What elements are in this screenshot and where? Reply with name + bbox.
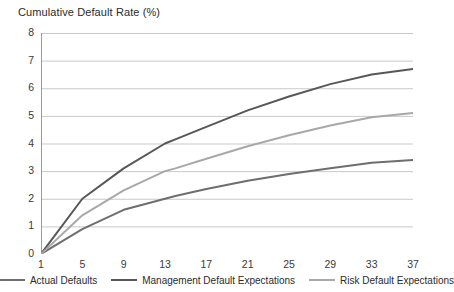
y-tick-label-3: 3 bbox=[14, 164, 34, 176]
x-tick-label-29: 29 bbox=[318, 258, 342, 270]
legend-swatch-icon-2 bbox=[309, 279, 335, 282]
x-tick-label-9: 9 bbox=[112, 258, 136, 270]
x-tick-label-17: 17 bbox=[194, 258, 218, 270]
legend-swatch-icon-1 bbox=[111, 279, 137, 282]
series-line-1 bbox=[41, 69, 413, 254]
legend-label-0: Actual Defaults bbox=[30, 275, 97, 286]
legend-label-1: Management Default Expectations bbox=[142, 275, 295, 286]
y-tick-label-4: 4 bbox=[14, 137, 34, 149]
x-tick-label-13: 13 bbox=[153, 258, 177, 270]
x-tick-label-21: 21 bbox=[236, 258, 260, 270]
legend-label-2: Risk Default Expectations bbox=[340, 275, 454, 286]
x-tick-label-33: 33 bbox=[360, 258, 384, 270]
legend-swatch-icon-0 bbox=[0, 279, 25, 282]
x-tick-label-5: 5 bbox=[70, 258, 94, 270]
y-tick-label-1: 1 bbox=[14, 219, 34, 231]
legend-item-2[interactable]: Risk Default Expectations bbox=[309, 275, 454, 286]
legend-item-1[interactable]: Management Default Expectations bbox=[111, 275, 295, 286]
x-tick-label-25: 25 bbox=[277, 258, 301, 270]
chart-legend: Actual DefaultsManagement Default Expect… bbox=[0, 272, 453, 288]
plot-svg bbox=[41, 33, 413, 254]
x-tick-label-1: 1 bbox=[29, 258, 53, 270]
chart-title: Cumulative Default Rate (%) bbox=[18, 6, 160, 18]
y-tick-label-2: 2 bbox=[14, 192, 34, 204]
legend-item-0[interactable]: Actual Defaults bbox=[0, 275, 97, 286]
x-tick-label-37: 37 bbox=[401, 258, 425, 270]
series-line-2 bbox=[41, 113, 413, 254]
y-tick-label-6: 6 bbox=[14, 81, 34, 93]
plot-area bbox=[41, 33, 413, 254]
y-tick-label-8: 8 bbox=[14, 26, 34, 38]
y-tick-label-7: 7 bbox=[14, 54, 34, 66]
y-tick-label-5: 5 bbox=[14, 109, 34, 121]
